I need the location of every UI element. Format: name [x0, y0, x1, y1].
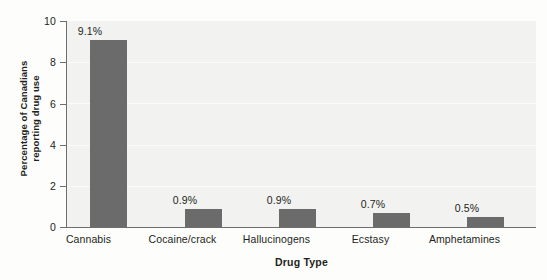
bar-value-amphetamines: 0.5% — [437, 202, 497, 214]
y-tick-label-4: 4 — [36, 139, 56, 151]
y-axis-title: Percentage of Canadians reporting drug u… — [12, 11, 48, 226]
bar-amphetamines — [467, 217, 504, 227]
y-tick-mark-4 — [60, 145, 66, 146]
x-axis-line — [66, 227, 536, 228]
y-axis-title-line-1: Percentage of Canadians — [18, 61, 31, 177]
y-tick-mark-8 — [60, 62, 66, 63]
y-tick-label-10: 10 — [36, 15, 56, 27]
gridline-8 — [67, 62, 536, 63]
gridline-4 — [67, 145, 536, 146]
y-tick-mark-10 — [60, 21, 66, 22]
x-tick-label-ecstasy: Ecstasy — [324, 233, 417, 245]
y-axis-line — [66, 21, 67, 228]
x-tick-label-hallucinogens: Hallucinogens — [230, 233, 323, 245]
bar-cocaine-crack — [185, 209, 222, 228]
bar-ecstasy — [373, 213, 410, 227]
x-tick-label-cocaine-crack: Cocaine/crack — [136, 233, 229, 245]
x-axis-title: Drug Type — [67, 256, 536, 268]
bar-cannabis — [90, 40, 127, 228]
x-tick-label-amphetamines: Amphetamines — [418, 233, 511, 245]
bar-hallucinogens — [279, 209, 316, 228]
bar-value-cannabis: 9.1% — [60, 25, 120, 37]
bar-value-ecstasy: 0.7% — [343, 198, 403, 210]
y-tick-label-2: 2 — [36, 180, 56, 192]
bar-value-cocaine-crack: 0.9% — [155, 194, 215, 206]
y-tick-label-0: 0 — [36, 221, 56, 233]
gridline-6 — [67, 103, 536, 104]
y-tick-label-6: 6 — [36, 98, 56, 110]
gridline-2 — [67, 186, 536, 187]
y-tick-mark-2 — [60, 186, 66, 187]
y-tick-mark-0 — [60, 227, 66, 228]
x-tick-label-cannabis: Cannabis — [42, 233, 135, 245]
bar-chart-figure: Percentage of Canadians reporting drug u… — [0, 0, 547, 280]
y-tick-label-8: 8 — [36, 56, 56, 68]
bar-value-hallucinogens: 0.9% — [249, 194, 309, 206]
y-tick-mark-6 — [60, 104, 66, 105]
